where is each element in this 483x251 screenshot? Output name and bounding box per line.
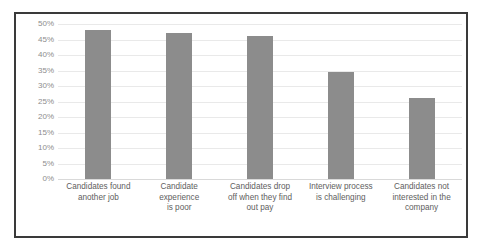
- bar-series: [58, 24, 462, 179]
- bar-slot: [381, 24, 462, 179]
- y-axis-tick-label: 10%: [16, 144, 54, 152]
- y-axis-tick-label: 40%: [16, 51, 54, 59]
- category-label: Interview processis challenging: [300, 182, 381, 203]
- y-axis-tick-label: 30%: [16, 82, 54, 90]
- bar-slot: [58, 24, 139, 179]
- y-axis-tick-label: 15%: [16, 129, 54, 137]
- bar[interactable]: [166, 33, 192, 179]
- chart-container: 50%45%40%35%30%25%20%15%10%5%0% Candidat…: [14, 12, 468, 238]
- category-label: Candidates foundanother job: [58, 182, 139, 203]
- category-label-line: Interview process: [300, 182, 381, 193]
- bar[interactable]: [328, 72, 354, 179]
- y-axis-tick-label: 35%: [16, 67, 54, 75]
- y-axis-tick-label: 50%: [16, 20, 54, 28]
- bar-slot: [139, 24, 220, 179]
- category-label-line: Candidates drop: [220, 182, 301, 193]
- category-label: Candidates notinterested in thecompany: [381, 182, 462, 214]
- category-label-line: interested in the: [381, 193, 462, 204]
- bar-slot: [300, 24, 381, 179]
- category-label-line: is challenging: [300, 193, 381, 204]
- bar[interactable]: [247, 36, 273, 179]
- y-axis-tick-label: 5%: [16, 160, 54, 168]
- category-label-line: another job: [58, 193, 139, 204]
- x-axis-category-labels: Candidates foundanother jobCandidateexpe…: [58, 180, 462, 234]
- bar[interactable]: [409, 98, 435, 179]
- bar-slot: [220, 24, 301, 179]
- category-label: Candidates dropoff when they findout pay: [220, 182, 301, 214]
- category-label-line: out pay: [220, 203, 301, 214]
- category-label-line: company: [381, 203, 462, 214]
- bar[interactable]: [85, 30, 111, 179]
- plot-area: 50%45%40%35%30%25%20%15%10%5%0% Candidat…: [16, 14, 466, 236]
- category-label: Candidateexperienceis poor: [139, 182, 220, 214]
- category-label-line: is poor: [139, 203, 220, 214]
- category-label-line: experience: [139, 193, 220, 204]
- y-axis-tick-label: 45%: [16, 36, 54, 44]
- y-axis-tick-label: 0%: [16, 175, 54, 183]
- y-axis-tick-label: 20%: [16, 113, 54, 121]
- category-label-line: Candidates found: [58, 182, 139, 193]
- category-label-line: Candidates not: [381, 182, 462, 193]
- category-label-line: off when they find: [220, 193, 301, 204]
- y-axis-tick-label: 25%: [16, 98, 54, 106]
- category-label-line: Candidate: [139, 182, 220, 193]
